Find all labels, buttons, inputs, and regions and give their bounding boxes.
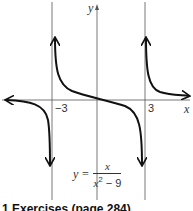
formula-lhs: y = [73, 167, 89, 182]
tick-label-neg3: −3 [55, 103, 68, 114]
figure-caption: 1 Exercises (page 284) [2, 202, 131, 211]
formula-denominator: x2 − 9 [93, 175, 121, 189]
curve-left-branch [6, 100, 50, 165]
y-axis-label: y [88, 2, 93, 14]
curve-middle-branch [55, 38, 142, 165]
y-axis-arrow-icon [95, 4, 99, 10]
x-axis-label: x [184, 103, 189, 115]
tick-label-3: 3 [148, 103, 154, 114]
formula-numerator: x [103, 160, 112, 172]
function-formula: y = x x2 − 9 [73, 160, 121, 189]
denominator-exponent: 2 [98, 175, 102, 184]
curve-right-branch [146, 38, 189, 96]
formula-fraction: x x2 − 9 [93, 160, 121, 189]
denominator-rest: − 9 [106, 177, 122, 189]
fraction-bar [93, 173, 121, 174]
